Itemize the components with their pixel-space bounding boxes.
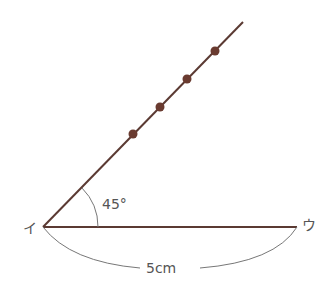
end-label: ウ [302, 214, 316, 234]
angle-label: 45° [102, 196, 127, 212]
length-brace-right [200, 227, 297, 268]
angle-arc [82, 188, 98, 227]
angle-diagram [0, 0, 333, 302]
point-dot [129, 130, 138, 139]
length-brace-left [43, 227, 140, 268]
point-dot [211, 47, 220, 56]
vertex-label: イ [23, 217, 37, 237]
point-dot [156, 103, 165, 112]
length-label: 5cm [146, 260, 176, 276]
point-dot [183, 75, 192, 84]
